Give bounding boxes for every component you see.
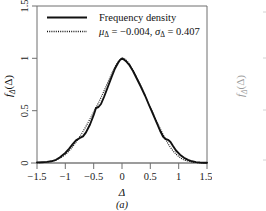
x-axis-ticks — [37, 163, 207, 169]
panel-b-svg: fΔ(Δ) — [212, 0, 266, 211]
frequency-density-curve — [37, 58, 207, 162]
x-tick-label: 0.5 — [144, 171, 157, 182]
panel-b-edge-ticks — [263, 12, 266, 160]
legend-label-normal-fit: μΔ = −0.004, σΔ = 0.407 — [98, 26, 200, 39]
chart-panel-b-partial: fΔ(Δ) — [212, 0, 266, 211]
legend-mu-value: −0.004 — [120, 26, 150, 37]
legend-label-frequency-density: Frequency density — [99, 12, 177, 23]
panel-b-y-axis-label: fΔ(Δ) — [234, 75, 249, 97]
panel-caption: (a) — [116, 199, 129, 211]
chart-legend: Frequency density μΔ = −0.004, σΔ = 0.40… — [47, 12, 200, 39]
x-axis-label: Δ — [118, 186, 125, 198]
x-tick-labels: −1.5 −1 −0.5 0 0.5 1 1.5 — [27, 171, 212, 182]
panel-b-label-arg: (Δ) — [234, 75, 247, 90]
chart-panel-a: 0 0.5 1 1.5 −1.5 −1 −0.5 0 0.5 1 1.5 fΔ(… — [0, 0, 212, 211]
legend-sigma-eq: = — [165, 26, 176, 37]
y-tick-label: 1 — [19, 56, 30, 61]
legend-sigma-value: 0.407 — [176, 26, 200, 37]
y-tick-label: 0.5 — [19, 104, 30, 117]
y-tick-label: 0 — [19, 160, 30, 165]
normal-fit-curve — [37, 58, 207, 163]
y-tick-label: 1.5 — [19, 0, 30, 13]
x-tick-label: −1.5 — [27, 171, 46, 182]
legend-mu-eq: = — [109, 26, 120, 37]
svg-text:fΔ(Δ): fΔ(Δ) — [234, 75, 249, 97]
x-tick-label: −0.5 — [84, 171, 103, 182]
x-tick-label: 1.5 — [199, 171, 212, 182]
x-tick-label: 0 — [119, 171, 124, 182]
y-axis-label: fΔ(Δ) — [2, 75, 17, 97]
y-tick-labels: 0 0.5 1 1.5 — [19, 0, 30, 166]
svg-text:fΔ(Δ): fΔ(Δ) — [2, 75, 17, 97]
y-axis-ticks — [31, 6, 37, 163]
y-axis-label-arg: (Δ) — [2, 75, 15, 90]
x-tick-label: −1 — [60, 171, 71, 182]
x-tick-label: 1 — [176, 171, 181, 182]
figure-panel-a: 0 0.5 1 1.5 −1.5 −1 −0.5 0 0.5 1 1.5 fΔ(… — [0, 0, 266, 211]
chart-svg: 0 0.5 1 1.5 −1.5 −1 −0.5 0 0.5 1 1.5 fΔ(… — [0, 0, 212, 211]
